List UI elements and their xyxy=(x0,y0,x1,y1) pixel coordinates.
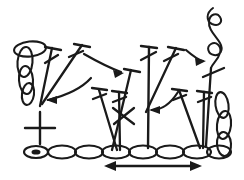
treble-stitch-symbol xyxy=(172,89,200,148)
slip-knot-marker xyxy=(32,149,41,154)
work-direction-arrow xyxy=(104,161,202,171)
arrow-head-left xyxy=(104,161,116,171)
single-crochet-cross-symbol xyxy=(25,112,55,144)
treble-stitch-symbol xyxy=(141,46,157,148)
diagram-canvas xyxy=(0,0,244,180)
hook-path-arrow-right xyxy=(84,54,124,78)
treble-stitch-symbol xyxy=(203,68,224,146)
crochet-stitch-diagram xyxy=(0,0,244,180)
arrow-head-right xyxy=(190,161,202,171)
treble-stitch-symbol xyxy=(146,47,184,112)
treble-stitch-symbol xyxy=(112,69,140,150)
yarn-tail xyxy=(208,8,222,68)
hook-path-arrow-right xyxy=(186,50,206,66)
hook-path-arrow-left xyxy=(46,78,91,104)
treble-stitch-symbol xyxy=(92,88,117,150)
guide-arrow-group xyxy=(46,50,206,114)
